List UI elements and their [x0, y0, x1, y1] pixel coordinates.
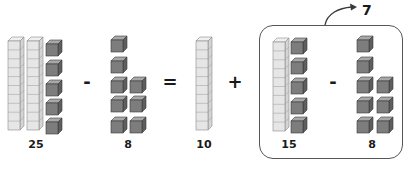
minuend-blocks — [8, 37, 62, 134]
unit-cube — [46, 80, 62, 96]
base-ten-subtraction-diagram: - = + - 25 8 10 15 8 7 — [0, 0, 407, 172]
unit-cube — [46, 60, 62, 76]
unit-cube — [111, 77, 127, 93]
label-boxed-8: 8 — [357, 139, 387, 151]
minus-sign-1: - — [77, 72, 97, 92]
unit-cube — [46, 40, 62, 56]
ten-rod — [27, 37, 43, 130]
ten-rod — [196, 37, 212, 130]
equals-sign: = — [160, 72, 180, 92]
unit-cube — [46, 99, 62, 115]
label-10: 10 — [189, 139, 219, 151]
result-label-7: 7 — [362, 2, 372, 18]
unit-cube — [130, 96, 146, 112]
unit-cube — [111, 96, 127, 112]
unit-cube — [111, 117, 127, 133]
label-25: 25 — [21, 139, 51, 151]
tens-part-blocks — [196, 37, 212, 130]
unit-cube — [46, 118, 62, 134]
plus-sign: + — [225, 72, 245, 92]
label-8: 8 — [113, 139, 143, 151]
minus-sign-2: - — [323, 72, 343, 92]
unit-cube — [111, 57, 127, 73]
subtrahend-blocks — [111, 36, 146, 133]
curved-arrow-icon — [325, 4, 357, 26]
label-15: 15 — [274, 139, 304, 151]
unit-cube — [130, 117, 146, 133]
unit-cube — [130, 77, 146, 93]
unit-cube — [111, 36, 127, 52]
ten-rod — [8, 37, 24, 130]
